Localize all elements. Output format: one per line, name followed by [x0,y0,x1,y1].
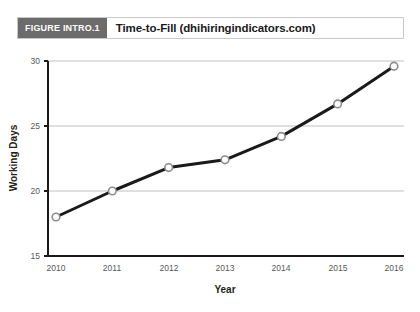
data-point-2011 [109,187,117,195]
y-tick-label-20: 20 [31,186,41,196]
figure-header: FIGURE INTRO.1 Time-to-Fill (dhihiringin… [17,17,404,39]
data-point-2010 [52,213,60,221]
data-point-2016 [390,62,398,70]
x-tick-label-2014: 2014 [272,263,291,273]
gridlines [48,61,404,191]
x-tick-label-2013: 2013 [216,263,235,273]
series-line-time-to-fill [56,66,394,217]
x-tick-label-2011: 2011 [103,263,122,273]
x-tick-labels: 2010 2011 2012 2013 2014 2015 2016 [47,263,404,273]
series-markers [52,62,398,220]
figure-tag-badge: FIGURE INTRO.1 [18,18,107,38]
y-axis-title: Working Days [8,124,19,191]
figure-title: Time-to-Fill (dhihiringindicators.com) [107,18,316,38]
data-point-2015 [334,100,342,108]
line-chart: 30 25 20 15 2010 2011 2012 2013 2014 201… [0,45,420,312]
x-axis-title: Year [214,284,235,295]
y-tick-labels: 30 25 20 15 [31,56,41,261]
x-tick-label-2010: 2010 [47,263,66,273]
chart-container: 30 25 20 15 2010 2011 2012 2013 2014 201… [0,45,420,312]
data-point-2014 [278,133,286,141]
y-tick-label-30: 30 [31,56,41,66]
y-tick-label-15: 15 [31,251,41,261]
data-point-2013 [221,156,229,164]
y-tick-label-25: 25 [31,121,41,131]
x-tick-label-2015: 2015 [329,263,348,273]
x-tick-label-2016: 2016 [385,263,404,273]
data-point-2012 [165,164,173,172]
x-tick-label-2012: 2012 [160,263,179,273]
